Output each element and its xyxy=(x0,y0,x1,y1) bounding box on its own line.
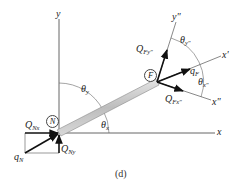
qN-label: qN xyxy=(14,152,23,164)
x-double-prime-label: x" xyxy=(212,97,221,107)
theta-y-label: θy xyxy=(81,84,89,96)
y-double-prime-label: y" xyxy=(172,12,181,22)
node-F-marker: F xyxy=(144,69,157,82)
x-axis-label: x xyxy=(217,127,221,137)
theta-y2-label: θy" xyxy=(180,35,191,47)
figure-caption: (d) xyxy=(115,168,127,179)
truss-member-diagram xyxy=(0,0,237,184)
QNx-label: QNx xyxy=(25,120,39,132)
QFy-label: QFy" xyxy=(136,44,153,56)
theta-x-label: θx xyxy=(101,120,109,132)
node-N-marker: N xyxy=(46,115,59,128)
qN-arrow xyxy=(25,134,58,153)
QFx-arrow xyxy=(157,82,183,91)
theta-x2-label: θx" xyxy=(198,77,209,89)
QFy-arrow xyxy=(157,50,167,82)
x-prime-label: x' xyxy=(222,50,229,60)
QFx-label: QFx" xyxy=(165,94,182,106)
qF-arrow xyxy=(157,69,190,82)
QNy-label: QNy xyxy=(61,144,75,156)
y-axis-label: y xyxy=(56,9,60,19)
